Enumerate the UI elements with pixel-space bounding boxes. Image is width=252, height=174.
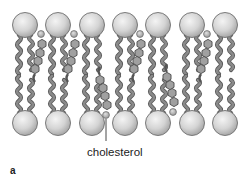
upper-phosphate-head: [113, 13, 138, 38]
cholesterol-ring: [197, 64, 205, 73]
lower-phosphate-head: [113, 111, 138, 136]
upper-phosphate-head: [213, 13, 238, 38]
lower-phosphate-head: [213, 111, 238, 136]
lower-phosphate-head: [146, 111, 171, 136]
cholesterol-ring: [135, 48, 143, 57]
panel-label: a: [10, 165, 16, 174]
cholesterol-hydroxyl: [38, 31, 45, 38]
cholesterol-ring: [101, 91, 109, 100]
cholesterol-ring: [96, 75, 104, 84]
lower-phosphate-head: [46, 111, 71, 136]
upper-phosphate-head: [13, 13, 38, 38]
cholesterol-ring: [71, 39, 79, 48]
upper-phosphate-head: [146, 13, 171, 38]
cholesterol-ring: [38, 39, 46, 48]
lower-phosphate-head: [13, 111, 38, 136]
cholesterol-hydroxyl: [170, 109, 177, 116]
cholesterol-tail: [133, 74, 135, 82]
cholesterol-hydroxyl: [137, 31, 144, 38]
cholesterol-ring: [130, 64, 138, 73]
cholesterol-ring: [36, 48, 44, 57]
cholesterol-ring: [168, 88, 176, 97]
cholesterol-ring: [137, 39, 145, 48]
lower-phosphate-head: [180, 111, 205, 136]
lower-phosphate-head: [80, 111, 105, 136]
lipid-bilayer-diagram: cholesterol a: [0, 0, 252, 174]
cholesterol-ring: [64, 64, 72, 73]
cholesterol-label: cholesterol: [87, 146, 143, 158]
cholesterol-tail: [200, 74, 202, 82]
lower-tail: [62, 80, 66, 113]
lower-tail: [229, 80, 233, 113]
upper-phosphate-head: [180, 13, 205, 38]
lower-tail: [129, 80, 133, 113]
lower-tail: [196, 80, 200, 113]
cholesterol-ring: [204, 39, 212, 48]
cholesterol-ring: [69, 48, 77, 57]
upper-phosphate-head: [46, 13, 71, 38]
lower-tail: [162, 80, 166, 113]
lower-tail: [29, 80, 33, 113]
cholesterol-ring: [163, 72, 171, 81]
cholesterol-ring: [31, 64, 39, 73]
cholesterol-hydroxyl: [204, 31, 211, 38]
cholesterol-ring: [170, 97, 178, 106]
cholesterol-tail: [67, 74, 69, 82]
cholesterol-tail: [34, 74, 36, 82]
phosphate-heads: [13, 13, 238, 136]
cholesterol-hydroxyl: [71, 31, 78, 38]
upper-phosphate-head: [80, 13, 105, 38]
cholesterol-ring: [103, 100, 111, 109]
cholesterol-ring: [202, 48, 210, 57]
